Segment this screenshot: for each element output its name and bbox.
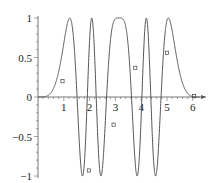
y-tick-label: −1	[20, 170, 32, 182]
data-point-marker	[134, 66, 137, 69]
x-tick-label: 1	[61, 101, 67, 113]
data-point-marker	[112, 123, 115, 126]
data-point-marker	[165, 51, 168, 54]
y-tick-label: 1	[27, 12, 33, 24]
x-tick-label: 2	[87, 101, 93, 113]
x-axis-arrow	[201, 95, 206, 99]
x-tick-label: 6	[190, 101, 196, 113]
line-chart: 12345610.50−0.5−1	[0, 0, 214, 183]
x-tick-label: 3	[113, 101, 119, 113]
data-point-marker	[87, 169, 90, 172]
y-tick-label: 0	[27, 91, 33, 103]
y-tick-label: −0.5	[12, 131, 32, 143]
data-point-marker	[61, 80, 64, 83]
x-tick-label: 5	[164, 101, 170, 113]
y-tick-label: 0.5	[18, 52, 32, 64]
axes	[38, 16, 206, 178]
